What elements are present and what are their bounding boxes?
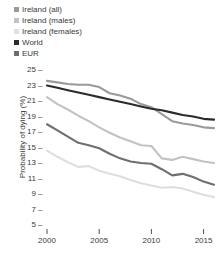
- y-tick-mark: –: [38, 66, 42, 74]
- y-tick-label: 19: [14, 113, 36, 121]
- chart-figure: Ireland (all) Ireland (males) Ireland (f…: [0, 0, 220, 258]
- y-tick-mark: –: [38, 113, 42, 121]
- y-tick-mark: –: [38, 206, 42, 214]
- y-tick-label: 15: [14, 144, 36, 152]
- series-line: [47, 97, 214, 163]
- series-line: [47, 124, 214, 184]
- y-tick-mark: –: [38, 144, 42, 152]
- x-tick-label: 2010: [136, 237, 166, 245]
- y-tick-mark: –: [38, 221, 42, 229]
- y-tick-mark: –: [38, 128, 42, 136]
- y-tick-mark: –: [38, 82, 42, 90]
- y-tick-mark: –: [38, 175, 42, 183]
- y-tick-label: 7: [14, 206, 36, 214]
- y-tick-label: 17: [14, 128, 36, 136]
- y-tick-mark: –: [38, 159, 42, 167]
- y-tick-label: 13: [14, 159, 36, 167]
- x-tick-label: 2015: [189, 237, 219, 245]
- y-tick-mark: –: [38, 190, 42, 198]
- y-tick-mark: –: [38, 97, 42, 105]
- y-tick-label: 5: [14, 221, 36, 229]
- y-tick-label: 23: [14, 82, 36, 90]
- y-tick-label: 11: [14, 175, 36, 183]
- y-tick-label: 9: [14, 190, 36, 198]
- y-tick-label: 21: [14, 97, 36, 105]
- y-tick-label: 25: [14, 66, 36, 74]
- series-line: [47, 86, 214, 120]
- x-tick-label: 2000: [32, 237, 62, 245]
- x-tick-label: 2005: [84, 237, 114, 245]
